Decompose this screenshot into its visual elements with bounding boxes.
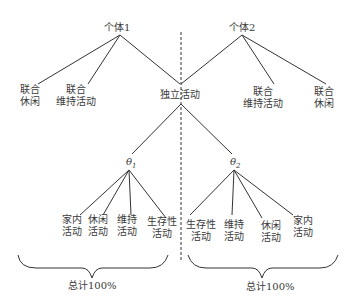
edge-i1-joint-maint — [88, 35, 120, 84]
edge-i1-independent — [120, 35, 180, 84]
node-theta2-household: 家内 活动 — [293, 215, 313, 239]
node-left-joint-leisure: 联合 休闲 — [20, 84, 40, 108]
node-theta2: θ2 — [230, 156, 241, 172]
node-right-joint-maintenance: 联合 维持活动 — [243, 86, 283, 110]
node-theta2-leisure: 休闲 活动 — [261, 220, 281, 244]
node-theta2-subsistence: 生存性 活动 — [186, 219, 216, 243]
edge-i2-joint-maint — [242, 35, 274, 84]
node-theta1-household: 家内 活动 — [62, 214, 82, 238]
diagram-lines — [0, 0, 363, 304]
edge-indep-theta2 — [181, 104, 232, 154]
total-left: 总计100% — [68, 280, 117, 292]
node-theta1-subsistence: 生存性 活动 — [147, 216, 177, 240]
node-theta1: θ1 — [126, 156, 137, 172]
node-theta2-maintenance: 维持 活动 — [224, 219, 244, 243]
node-theta1-maintenance: 维持 活动 — [117, 214, 137, 238]
edge-i2-independent — [181, 35, 242, 84]
total-right: 总计100% — [246, 281, 295, 293]
node-right-joint-leisure: 联合 休闲 — [314, 86, 334, 110]
node-left-joint-maintenance: 联合 维持活动 — [56, 84, 96, 108]
edge-indep-theta1 — [132, 104, 181, 154]
brace-right — [188, 255, 338, 278]
edge-i2-joint-leisure — [242, 35, 326, 84]
edge-i1-joint-leisure — [38, 35, 120, 84]
node-theta1-leisure: 休闲 活动 — [88, 214, 108, 238]
node-individual1: 个体1 — [104, 22, 130, 34]
brace-left — [18, 255, 168, 278]
node-independent: 独立活动 — [160, 89, 200, 101]
node-individual2: 个体2 — [229, 22, 255, 34]
